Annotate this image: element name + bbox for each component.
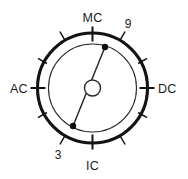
- dial-label-ac: AC: [10, 82, 28, 96]
- tick-minor-120: [60, 32, 65, 41]
- needle-dot-lower: [70, 123, 76, 129]
- center-hub: [85, 80, 101, 96]
- tick-minor-300: [120, 136, 125, 145]
- dial-label-ic: IC: [86, 159, 99, 173]
- dial-label-mc: MC: [83, 11, 103, 25]
- dial-svg-canvas: MC AC DC IC 9 3: [0, 0, 188, 179]
- dial-diagram-figure: MC AC DC IC 9 3: [0, 0, 188, 179]
- tick-minor-240: [60, 136, 65, 145]
- needle-dot-upper: [102, 44, 108, 50]
- dial-label-three: 3: [55, 148, 62, 162]
- dial-label-nine: 9: [125, 17, 132, 31]
- tick-minor-60: [120, 32, 125, 41]
- dial-label-dc: DC: [158, 82, 176, 96]
